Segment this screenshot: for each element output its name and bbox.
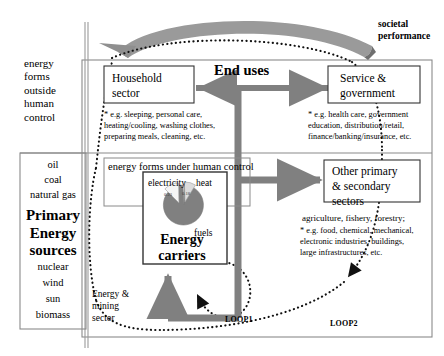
energy-mining-sector-label: Energy &miningsector	[92, 288, 152, 324]
household-sector-title: Householdsector	[112, 71, 192, 101]
primary-source-natural-gas: natural gas	[22, 189, 84, 201]
other-sectors-note: * e.g. food, chemical, mechanical, elect…	[300, 226, 444, 259]
other-sectors-note-heading: agriculture, fishery, forestry;	[302, 213, 444, 223]
pie-label-heat: heat	[196, 178, 212, 189]
human-control-label: energy forms under human control	[108, 161, 254, 173]
primary-source-coal: coal	[22, 174, 84, 186]
pie-label-electricity: electricity	[148, 178, 186, 189]
other-sectors-title: Other primary& secondarysectors	[332, 164, 420, 209]
primary-source-biomass: biomass	[22, 309, 84, 321]
loop1-dotted-path	[200, 262, 250, 318]
primary-source-wind: wind	[22, 277, 84, 289]
pie-value-electricity: 0.23	[164, 192, 172, 197]
pie-value-heat: 0.18	[182, 191, 190, 196]
primary-source-nuclear: nuclear	[22, 261, 84, 273]
loop1-label: LOOP1	[225, 316, 253, 325]
loop2-label: LOOP2	[330, 320, 358, 329]
service-government-title: Service &government	[340, 71, 420, 101]
energy-carriers-title: Energycarriers	[143, 232, 221, 263]
service-government-note: * e.g. health care, government education…	[308, 110, 442, 143]
societal-performance-label: societalperformance	[378, 18, 442, 42]
primary-source-sun: sun	[22, 293, 84, 305]
diagram-canvas: energyformsoutsidehumancontrol oil coal …	[0, 0, 444, 356]
end-uses-label: End uses	[214, 62, 269, 78]
primary-source-oil: oil	[22, 159, 84, 171]
primary-energy-sources-heading: PrimaryEnergysources	[20, 207, 86, 260]
outside-human-control-label: energyformsoutsidehumancontrol	[24, 57, 80, 124]
household-sector-note: * e.g. sleeping, personal care, heating/…	[104, 110, 244, 143]
